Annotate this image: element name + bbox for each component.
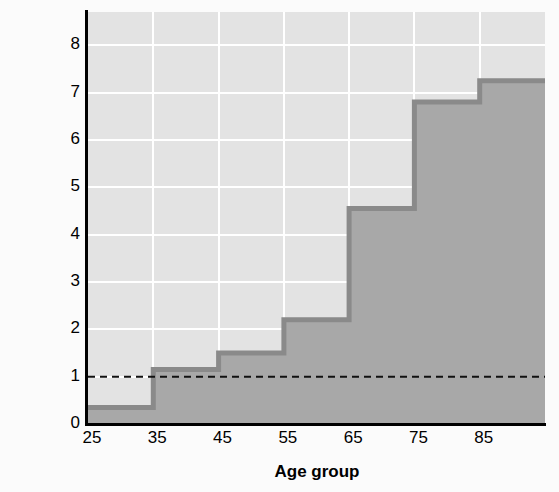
y-axis-tick-label: 7 [54,82,80,102]
x-axis-tick-label: 65 [333,428,373,448]
y-axis-tick-label: 4 [54,224,80,244]
x-axis-tick-label: 75 [398,428,438,448]
x-axis-tick-label: 25 [72,428,112,448]
x-axis-tick-label: 85 [464,428,504,448]
y-axis-tick-label: 2 [54,318,80,338]
x-axis-tick-label: 55 [268,428,308,448]
y-axis-tick-label: 5 [54,176,80,196]
x-axis-tick-label: 45 [203,428,243,448]
y-axis-tick-label: 8 [54,34,80,54]
x-axis-tick-label: 35 [137,428,177,448]
step-area-series [88,12,545,424]
y-axis-tick-label: 6 [54,129,80,149]
step-area-fill [88,81,545,424]
chart-figure: Ratio of lung cancer rates in 2005 vs. 1… [0,0,559,492]
y-axis-tick-label: 3 [54,271,80,291]
x-axis-spine [85,423,546,426]
x-axis-title: Age group [88,462,546,482]
plot-area [88,12,545,424]
y-axis-spine [85,10,88,426]
y-axis-tick-label: 1 [54,366,80,386]
y-axis-tick-labels: 012345678 [48,0,80,492]
